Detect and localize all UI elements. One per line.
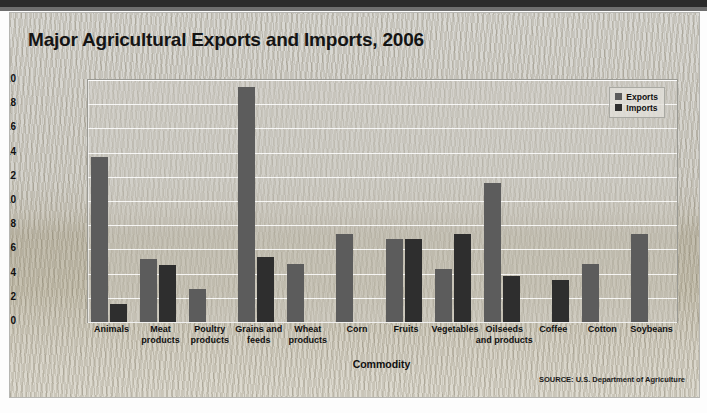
bar-group bbox=[383, 80, 432, 322]
x-tick-label: Soybeans bbox=[619, 324, 684, 335]
bar-group bbox=[137, 80, 186, 322]
y-tick-label: 12 bbox=[9, 171, 16, 181]
bar-group bbox=[481, 80, 530, 322]
bar-exports bbox=[435, 269, 452, 322]
bar-group bbox=[235, 80, 284, 322]
bar-group bbox=[530, 80, 579, 322]
legend-swatch-imports bbox=[615, 104, 622, 111]
bar-imports bbox=[110, 304, 127, 322]
bar-imports bbox=[257, 257, 274, 322]
bar-exports bbox=[631, 234, 648, 322]
bar-group bbox=[432, 80, 481, 322]
chart-title: Major Agricultural Exports and Imports, … bbox=[28, 29, 424, 51]
y-axis-title: Dollars (in billions) bbox=[9, 35, 10, 130]
y-tick-label: 4 bbox=[9, 268, 16, 278]
y-tick-label: 10 bbox=[9, 195, 16, 205]
gridline bbox=[88, 322, 677, 323]
y-tick-label: 16 bbox=[9, 122, 16, 132]
bar-exports bbox=[287, 264, 304, 322]
chart-legend: Exports Imports bbox=[609, 87, 665, 118]
bar-imports bbox=[552, 280, 569, 322]
y-tick-label: 18 bbox=[9, 98, 16, 108]
y-tick-label: 6 bbox=[9, 243, 16, 253]
y-tick-label: 2 bbox=[9, 292, 16, 302]
bar-group bbox=[284, 80, 333, 322]
bar-imports bbox=[454, 234, 471, 322]
legend-label-imports: Imports bbox=[626, 103, 657, 113]
legend-swatch-exports bbox=[615, 93, 622, 100]
chart-panel: Major Agricultural Exports and Imports, … bbox=[9, 12, 700, 398]
bar-exports bbox=[189, 289, 206, 322]
bar-group bbox=[333, 80, 382, 322]
plot-area: Exports Imports bbox=[87, 79, 678, 323]
bar-exports bbox=[238, 87, 255, 322]
bar-exports bbox=[582, 264, 599, 322]
y-tick-label: 8 bbox=[9, 219, 16, 229]
legend-item-exports: Exports bbox=[615, 91, 658, 102]
x-axis-tick-labels: AnimalsMeatproductsPoultryproductsGrains… bbox=[87, 324, 676, 358]
scan-top-edge bbox=[0, 0, 707, 7]
bar-exports bbox=[91, 157, 108, 322]
y-tick-label: 14 bbox=[9, 147, 16, 157]
bar-group bbox=[186, 80, 235, 322]
source-note: SOURCE: U.S. Department of Agriculture bbox=[539, 375, 685, 384]
bar-imports bbox=[405, 239, 422, 322]
bar-imports bbox=[159, 265, 176, 322]
legend-label-exports: Exports bbox=[626, 92, 658, 102]
bar-series-container bbox=[88, 80, 677, 322]
figure-root: Major Agricultural Exports and Imports, … bbox=[0, 0, 707, 413]
x-axis-title: Commodity bbox=[87, 358, 676, 370]
bar-group bbox=[88, 80, 137, 322]
bar-exports bbox=[484, 183, 501, 322]
y-tick-label: 20 bbox=[9, 74, 16, 84]
bar-exports bbox=[140, 259, 157, 322]
y-tick-label: 0 bbox=[9, 316, 16, 326]
bar-imports bbox=[503, 276, 520, 322]
bar-exports bbox=[336, 234, 353, 322]
legend-item-imports: Imports bbox=[615, 102, 658, 113]
bar-exports bbox=[386, 239, 403, 322]
